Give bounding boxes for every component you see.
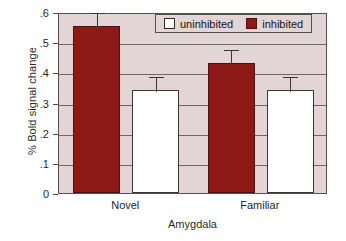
plot-inner xyxy=(59,14,326,193)
y-axis-tick-label: .6 xyxy=(27,7,49,19)
bar-familiar-uninhibited xyxy=(267,90,314,193)
bar-novel-inhibited xyxy=(73,26,120,193)
chart-legend: uninhibitedinhibited xyxy=(155,14,312,33)
x-axis-tick-labels: NovelFamiliar xyxy=(58,199,327,215)
legend-entry-inhibited: inhibited xyxy=(246,18,303,30)
dark-red-square-swatch xyxy=(246,18,257,29)
error-bar-cap xyxy=(224,50,239,51)
legend-entry-uninhibited: uninhibited xyxy=(164,18,233,30)
error-bar-cap xyxy=(149,77,164,78)
error-bar-stem xyxy=(290,77,291,92)
bar-novel-uninhibited xyxy=(132,90,179,193)
bar-familiar-inhibited xyxy=(208,63,255,193)
y-axis-tick-labels: 0.1.2.3.4.5.6 xyxy=(24,0,49,241)
y-axis-tick-label: .3 xyxy=(27,98,49,110)
error-bar-stem xyxy=(231,50,232,65)
error-bar-cap xyxy=(283,77,298,78)
y-axis-tick-label: 0 xyxy=(27,188,49,200)
error-bar-cap xyxy=(90,13,105,14)
y-axis-tick-label: .4 xyxy=(27,67,49,79)
legend-label: uninhibited xyxy=(180,18,233,30)
x-axis-tick-label: Familiar xyxy=(240,199,279,211)
y-axis-tick-mark xyxy=(53,194,58,195)
error-bar-stem xyxy=(156,77,157,92)
legend-label: inhibited xyxy=(262,18,303,30)
bar-chart-figure: % Bold signal change 0.1.2.3.4.5.6 uninh… xyxy=(0,0,346,241)
y-axis-tick-label: .5 xyxy=(27,37,49,49)
white-square-swatch xyxy=(164,18,175,29)
plot-area xyxy=(58,13,327,194)
y-axis-tick-label: .2 xyxy=(27,128,49,140)
x-axis-tick-label: Novel xyxy=(111,199,139,211)
x-axis-title: Amygdala xyxy=(58,218,327,230)
y-axis-tick-label: .1 xyxy=(27,158,49,170)
error-bar-stem xyxy=(97,13,98,28)
